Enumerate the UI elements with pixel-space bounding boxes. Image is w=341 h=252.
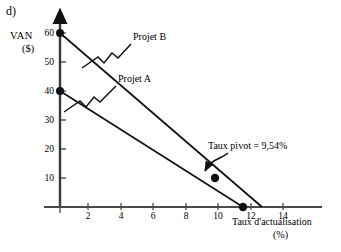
y-tick-label-10: 10: [38, 173, 54, 183]
y-tick-label-50: 50: [38, 57, 54, 67]
x-axis-title: Taux d'actualisation: [232, 216, 312, 227]
y-tick-label-20: 20: [38, 144, 54, 154]
x-tick-label-8: 8: [178, 211, 194, 221]
panel-letter: d): [6, 4, 16, 19]
x-axis-unit: (%): [273, 229, 288, 240]
figure-panel: 10 20 30 40 50 60 2 4 6 8 10 12 14 d) VA…: [0, 0, 341, 252]
leader-line-projet-b: [82, 44, 131, 68]
y-tick-label-30: 30: [38, 115, 54, 125]
x-tick-label-6: 6: [145, 211, 161, 221]
marker-crossover-point: [211, 174, 219, 182]
marker-projet-a-x-intercept: [239, 203, 247, 211]
marker-projet-a-intercept: [56, 87, 64, 95]
y-axis-unit: ($): [22, 43, 34, 54]
x-tick-label-2: 2: [80, 211, 96, 221]
series-label-projet-b: Projet B: [133, 31, 166, 42]
x-tick-label-4: 4: [113, 211, 129, 221]
y-axis-title: VAN: [10, 30, 33, 41]
pivot-annotation-text: Taux pivot = 9,54%: [208, 140, 287, 151]
marker-projet-b-intercept: [56, 29, 64, 37]
y-tick-label-60: 60: [38, 28, 54, 38]
series-label-projet-a: Projet A: [118, 73, 151, 84]
series-line-projet-b: [60, 33, 262, 207]
y-tick-label-40: 40: [38, 86, 54, 96]
x-tick-label-10: 10: [210, 211, 226, 221]
